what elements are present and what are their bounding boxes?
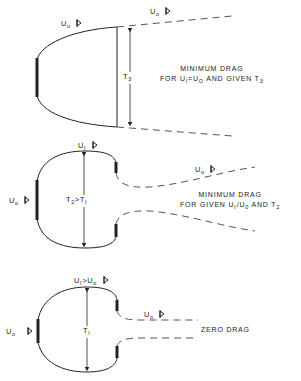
d2-thickness-label: T2>TI xyxy=(66,195,87,207)
d3-inner-velocity-label: UI>Uo xyxy=(74,276,109,287)
flow-direction-arrow-icon xyxy=(92,141,98,149)
flow-direction-arrow-icon xyxy=(159,310,165,318)
d1-caption: MINIMUM DRAG FOR UI=UO AND GIVEN T3 xyxy=(160,64,264,86)
flow-direction-arrow-icon xyxy=(24,196,30,204)
flow-direction-arrow-icon xyxy=(210,165,216,173)
d2-caption-line1: MINIMUM DRAG xyxy=(180,190,280,200)
d2-caption-line2: FOR GIVEN UI/U0 AND T2 xyxy=(180,200,280,212)
d2-inner-velocity-label: UI xyxy=(78,141,98,152)
d3-caption: ZERO DRAG xyxy=(201,325,250,335)
d1-caption-line1: MINIMUM DRAG xyxy=(160,64,264,74)
diagram-3-body xyxy=(38,287,198,372)
d3-caption-line1: ZERO DRAG xyxy=(201,325,250,335)
d1-far-velocity-label: Uo xyxy=(150,7,171,18)
d2-front-velocity-label: Uo xyxy=(9,196,30,207)
d1-caption-line2: FOR UI=UO AND GIVEN T3 xyxy=(160,74,264,86)
d3-thickness-label: TI xyxy=(83,326,90,338)
d2-caption: MINIMUM DRAG FOR GIVEN UI/U0 AND T2 xyxy=(180,190,280,212)
d2-wake-velocity-label: Uo xyxy=(195,165,216,176)
flow-direction-arrow-icon xyxy=(76,19,82,27)
d1-outer-velocity-label: Uo xyxy=(61,19,82,30)
d3-front-velocity-label: Uo xyxy=(6,327,33,338)
flow-direction-arrow-icon xyxy=(103,276,109,284)
d1-thickness-label: T3 xyxy=(123,72,132,84)
d3-wake-velocity-label: Uo xyxy=(144,310,165,321)
flow-direction-arrow-icon xyxy=(27,327,33,335)
flow-direction-arrow-icon xyxy=(165,7,171,15)
